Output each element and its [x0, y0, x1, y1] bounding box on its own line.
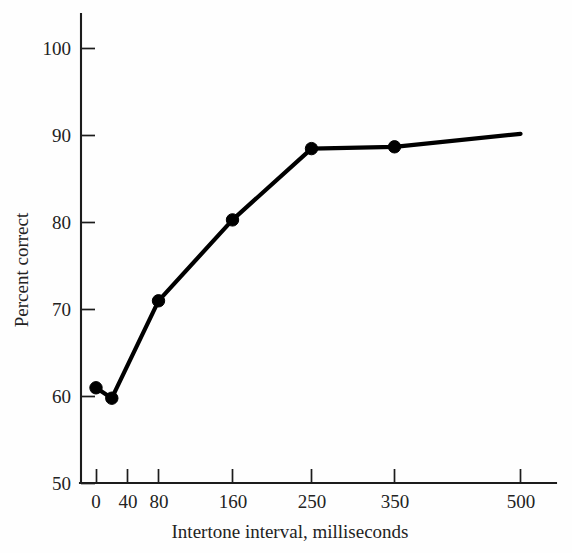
line-chart-plot: Percent correct 100 90 80 70 60 50	[0, 0, 572, 553]
x-tick-label-160: 160	[219, 491, 248, 512]
data-series-markers	[90, 141, 401, 405]
x-axis-title: Intertone interval, milliseconds	[172, 521, 409, 542]
data-point-marker	[152, 295, 164, 307]
data-point-marker	[226, 214, 238, 226]
x-tick-label-0: 0	[91, 491, 101, 512]
y-tick-label-60: 60	[52, 386, 71, 407]
x-axis-tick-labels: 0 40 80 160 250 350 500	[91, 491, 535, 512]
y-tick-label-50: 50	[52, 473, 71, 494]
data-point-marker	[388, 141, 400, 153]
y-axis-tick-labels: 100 90 80 70 60 50	[43, 38, 72, 494]
x-tick-label-80: 80	[150, 491, 169, 512]
x-tick-label-250: 250	[298, 491, 327, 512]
data-point-marker	[305, 142, 317, 154]
y-axis-title: Percent correct	[11, 212, 32, 327]
y-tick-label-80: 80	[52, 212, 71, 233]
data-point-marker	[90, 382, 102, 394]
y-tick-label-70: 70	[52, 299, 71, 320]
y-axis-ticks	[81, 49, 95, 484]
y-tick-label-90: 90	[52, 125, 71, 146]
chart-figure: Percent correct 100 90 80 70 60 50	[0, 0, 572, 553]
x-tick-label-500: 500	[507, 491, 536, 512]
data-point-marker	[106, 392, 118, 404]
x-tick-label-350: 350	[381, 491, 410, 512]
data-series-line	[96, 134, 521, 398]
x-axis-ticks	[97, 469, 521, 483]
y-tick-label-100: 100	[43, 38, 72, 59]
x-tick-label-40: 40	[119, 491, 138, 512]
